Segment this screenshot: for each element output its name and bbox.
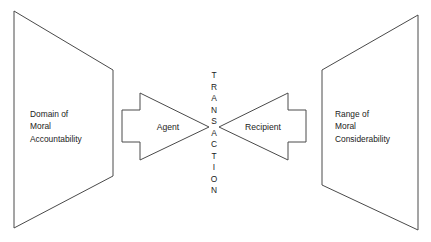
transaction-letter: N <box>211 185 217 195</box>
transaction-letter: I <box>213 162 215 172</box>
transaction-letter: S <box>211 116 217 126</box>
transaction-letter: A <box>211 93 217 103</box>
moral-transaction-diagram: Domain of Moral Accountability Range of … <box>0 0 431 242</box>
domain-of-moral-accountability-shape <box>14 11 113 228</box>
diagram-root: Domain of Moral Accountability Range of … <box>0 0 431 242</box>
transaction-letter: C <box>211 139 217 149</box>
range-of-moral-considerability-label-line-3: Considerability <box>335 134 391 144</box>
domain-of-moral-accountability-label-line-2: Moral <box>30 121 51 131</box>
transaction-letter: A <box>211 128 217 138</box>
agent-label: Agent <box>157 122 180 132</box>
transaction-letter: N <box>211 105 217 115</box>
transaction-letter: R <box>211 82 217 92</box>
transaction-letter: O <box>211 174 218 184</box>
domain-of-moral-accountability-label-line-3: Accountability <box>30 134 82 144</box>
transaction-letter: T <box>211 151 216 161</box>
transaction-letter: T <box>211 70 216 80</box>
recipient-label: Recipient <box>245 122 281 132</box>
range-of-moral-considerability-label-line-2: Moral <box>335 121 356 131</box>
domain-of-moral-accountability-label-line-1: Domain of <box>30 109 69 119</box>
transaction-vertical-label: T R A N S A C T I O N <box>211 70 218 195</box>
range-of-moral-considerability-label-line-1: Range of <box>335 109 370 119</box>
